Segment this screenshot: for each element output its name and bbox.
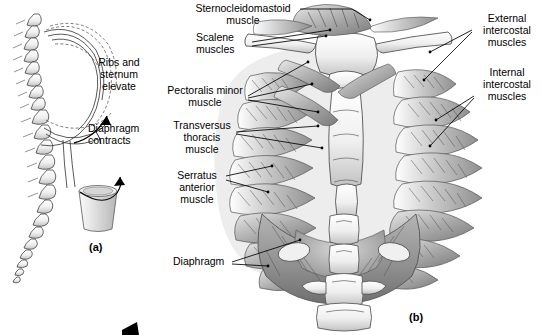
bucket-handle-analogy [79, 177, 125, 232]
label-diaphragm-contracts: Diaphragm contracts [88, 122, 160, 146]
label-diaphragm: Diaphragm [173, 255, 237, 267]
label-pectoralis-minor: Pectoralis minor muscle [162, 84, 248, 108]
figure-artwork [0, 0, 541, 335]
anatomical-figure: Ribs and sternum elevate Diaphragm contr… [0, 0, 541, 335]
label-sternocleidomastoid: Sternocleidomastoid muscle [186, 2, 300, 26]
label-transversus-thoracis: Transversus thoracis muscle [168, 119, 236, 156]
cropped-arrowhead-fragment [122, 322, 139, 335]
label-scalene: Scalene muscles [196, 31, 256, 55]
label-serratus-anterior: Serratus anterior muscle [166, 169, 228, 206]
label-external-intercostal: External intercostal muscles [474, 12, 540, 49]
caption-panel-b: (b) [409, 311, 423, 323]
label-ribs-sternum-elevate: Ribs and sternum elevate [88, 56, 150, 93]
caption-panel-a: (a) [89, 241, 102, 253]
panel-a-artwork [13, 14, 125, 283]
label-internal-intercostal: Internal intercostal muscles [474, 66, 540, 103]
